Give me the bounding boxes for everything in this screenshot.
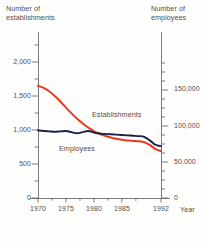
x-tick-label-1992: 1992 (153, 205, 169, 212)
left-tick-label-500: 500 (19, 160, 31, 167)
right-tick-label-150000: 150,000 (174, 85, 200, 92)
series-line-employees (38, 130, 161, 146)
left-tick-label-0: 0 (27, 194, 31, 201)
x-tick-label-1980: 1980 (86, 205, 102, 212)
x-tick-label-1985: 1985 (114, 205, 130, 212)
x-tick-label-1970: 1970 (30, 205, 46, 212)
series-annotation-establishments: Establishments (92, 110, 141, 119)
right-tick-label-100000: 100,000 (174, 122, 200, 129)
right-tick-label-0: 0 (174, 194, 178, 201)
series-annotation-employees: Employees (59, 144, 95, 153)
left-tick-label-1000: 1,000 (13, 126, 31, 133)
right-tick-label-50000: 50,000 (174, 158, 196, 165)
left-tick-label-1500: 1,500 (13, 92, 31, 99)
x-axis-unit-label: Year (180, 205, 195, 214)
left-tick-label-2000: 2,000 (13, 58, 31, 65)
line-chart: Number ofestablishments Number ofemploye… (0, 0, 208, 249)
x-tick-label-1975: 1975 (58, 205, 74, 212)
